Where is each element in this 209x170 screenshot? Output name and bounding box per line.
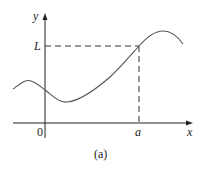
figure-caption: (a): [94, 147, 107, 161]
x-axis-label: x: [186, 125, 193, 139]
origin-label: 0: [37, 125, 43, 139]
a-label: a: [135, 125, 141, 139]
y-axis: [43, 13, 48, 138]
limit-diagram: y x L a 0 (a): [0, 0, 209, 170]
y-axis-label: y: [32, 9, 39, 23]
dashed-guides: [45, 46, 139, 123]
L-label: L: [33, 39, 41, 53]
y-axis-arrow-icon: [43, 13, 48, 20]
